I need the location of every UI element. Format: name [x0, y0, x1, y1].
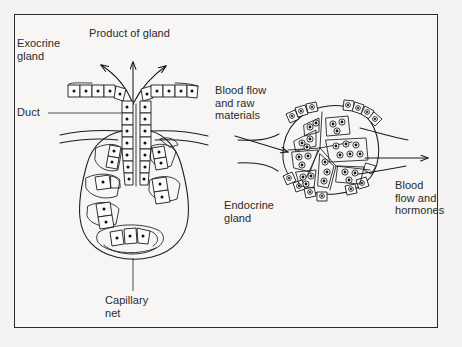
duct-wall-left: [122, 101, 133, 185]
figure-canvas: .ink { fill:none; stroke:#1a1a1a; stroke…: [0, 0, 462, 347]
label-product-of-gland: Product of gland: [89, 27, 170, 40]
duct-wall-right: [140, 101, 151, 185]
label-capillary-net: Capillary net: [105, 294, 148, 319]
label-blood-flow-and-raw-materials: Blood flow and raw materials: [215, 84, 266, 122]
endocrine-cell-clusters: [292, 116, 376, 188]
label-endocrine-gland: Endocrine gland: [224, 199, 274, 224]
surface-epithelium-left: [68, 83, 126, 101]
blood-inflow-arrow: [235, 136, 288, 152]
label-exocrine-gland: Exocrine gland: [17, 37, 60, 62]
exocrine-gland-illustration: [60, 62, 208, 259]
diagram-artwork: .ink { fill:none; stroke:#1a1a1a; stroke…: [0, 0, 462, 347]
label-blood-flow-and-hormones: Blood flow and hormones: [395, 179, 444, 217]
label-duct: Duct: [17, 106, 40, 119]
surface-epithelium-right: [141, 83, 198, 101]
product-secretion-arrows: [101, 62, 166, 104]
